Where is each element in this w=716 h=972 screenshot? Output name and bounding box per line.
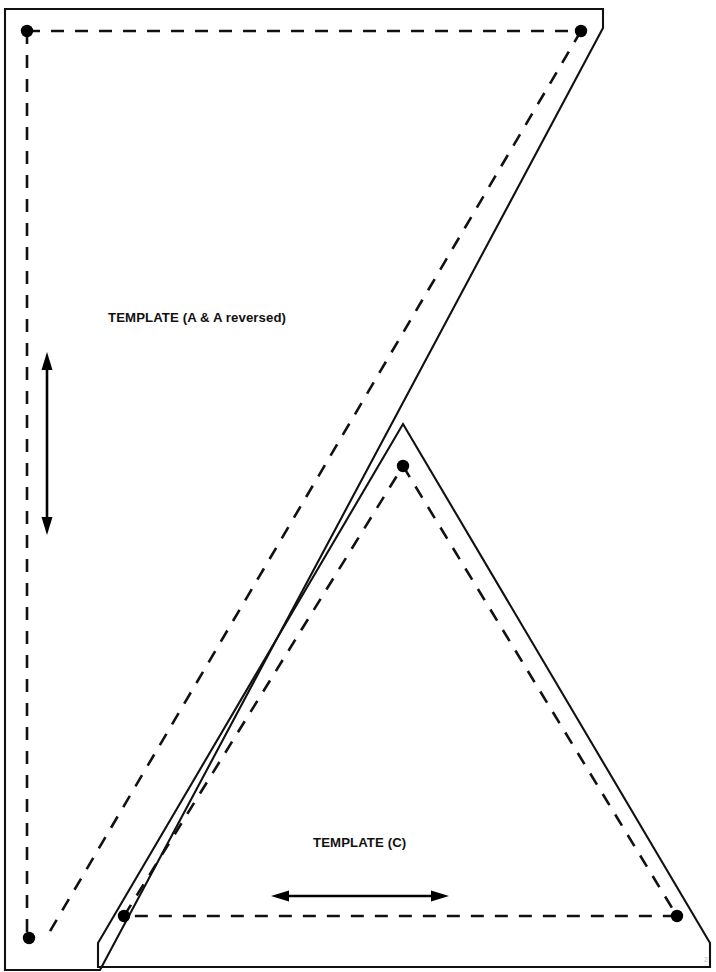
pivot-dot xyxy=(671,910,683,922)
page-number: 2 xyxy=(704,956,708,963)
pivot-dot xyxy=(575,25,587,37)
pivot-dot xyxy=(21,25,33,37)
grain-arrow-head-left xyxy=(271,891,289,902)
grain-arrow-head-up xyxy=(42,352,53,370)
template-a-group: TEMPLATE (A & A reversed) xyxy=(5,9,603,970)
template-c-label: TEMPLATE (C) xyxy=(313,835,406,850)
grain-arrow-head-down xyxy=(42,517,53,535)
pattern-sheet: TEMPLATE (A & A reversed) TEMPLATE (C) 2 xyxy=(0,0,716,972)
template-c-grain-arrow xyxy=(271,891,449,902)
grain-arrow-head-right xyxy=(431,891,449,902)
template-a-label: TEMPLATE (A & A reversed) xyxy=(108,310,286,325)
pivot-dot xyxy=(23,932,35,944)
template-a-grain-arrow xyxy=(42,352,53,535)
pivot-dot xyxy=(397,460,409,472)
template-a-cut-line xyxy=(5,9,603,970)
pivot-dot xyxy=(118,910,130,922)
template-a-seam-line-diagonal xyxy=(46,31,581,938)
pattern-diagram: TEMPLATE (A & A reversed) TEMPLATE (C) 2 xyxy=(0,0,716,972)
